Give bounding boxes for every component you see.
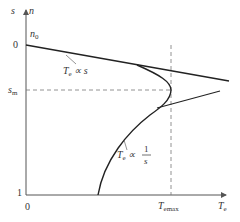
y-axis-label-s: s [11, 5, 15, 16]
n0-label: n0 [30, 28, 39, 41]
tick-one: 1 [17, 187, 22, 198]
sm-label: sm [8, 84, 18, 97]
inverse-denominator: s [144, 156, 148, 166]
linear-annotation: Te ∝ s [63, 65, 88, 78]
temax-label: Temax [158, 200, 179, 213]
y-axis-label-n: n [29, 5, 34, 16]
lower-tangent-line [157, 91, 220, 108]
torque-slip-diagram: s n n0 0 sm 1 0 Temax Te Te ∝ s Te ∝ 1 s [0, 0, 240, 222]
inverse-annotation: Te ∝ [117, 149, 136, 162]
torque-curve [98, 65, 171, 195]
x-axis-label-te: Te [218, 200, 227, 213]
inverse-numerator: 1 [144, 144, 149, 154]
tick-zero: 0 [13, 39, 18, 50]
origin-zero: 0 [25, 201, 30, 212]
linear-leader [66, 55, 76, 64]
linear-asymptote [26, 45, 229, 81]
